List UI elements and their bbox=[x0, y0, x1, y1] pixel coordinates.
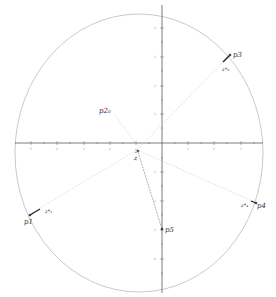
line-z-p5 bbox=[138, 152, 162, 229]
arrow-p3 bbox=[223, 55, 230, 62]
line-p2-z bbox=[115, 115, 135, 143]
line-z-p1 bbox=[40, 150, 137, 208]
svg-text:-3: -3 bbox=[82, 147, 85, 151]
svg-text:2: 2 bbox=[154, 84, 156, 88]
point-p5 bbox=[161, 228, 164, 231]
label-z-star-1: z*₁ bbox=[44, 208, 52, 214]
diagram-canvas: -5 -4 -3 -2 -1 1 2 3 4 3 2 1 -1 -2 -3 - bbox=[0, 0, 276, 297]
label-p5: p5 bbox=[165, 226, 174, 234]
svg-text:-5: -5 bbox=[29, 147, 32, 151]
y-axis-tick-labels: 4 3 2 1 -1 -2 -3 -4 bbox=[153, 26, 156, 261]
svg-text:-1: -1 bbox=[153, 170, 156, 174]
svg-text:-4: -4 bbox=[55, 147, 58, 151]
connector-lines bbox=[40, 55, 252, 208]
label-z-star-4: z*₄ bbox=[240, 202, 248, 208]
points bbox=[29, 54, 258, 231]
svg-text:1: 1 bbox=[154, 112, 156, 116]
svg-text:-2: -2 bbox=[108, 147, 111, 151]
line-z-p3 bbox=[137, 55, 230, 150]
svg-text:4: 4 bbox=[154, 26, 156, 30]
svg-text:1: 1 bbox=[187, 147, 189, 151]
point-p3 bbox=[229, 54, 232, 57]
svg-text:-4: -4 bbox=[153, 257, 156, 261]
label-p4: p4 bbox=[257, 202, 266, 210]
label-p1: p1 bbox=[24, 218, 33, 226]
line-z-p4 bbox=[137, 150, 252, 201]
label-z: z bbox=[133, 154, 138, 161]
svg-text:2: 2 bbox=[213, 147, 215, 151]
svg-text:3: 3 bbox=[240, 147, 242, 151]
svg-text:3: 3 bbox=[154, 55, 156, 59]
arrow-p1 bbox=[30, 209, 40, 215]
label-p2-0: p2₀ bbox=[99, 107, 111, 115]
svg-text:-3: -3 bbox=[153, 228, 156, 232]
label-z-star-3: z*₃ bbox=[221, 66, 229, 72]
label-p3: p3 bbox=[233, 51, 242, 59]
point-p1 bbox=[29, 214, 32, 217]
